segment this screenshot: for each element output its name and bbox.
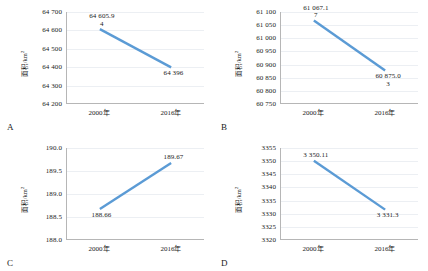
y-tick-label: 190.0 — [46, 144, 62, 152]
x-axis: 2000年2016年 — [66, 105, 204, 119]
y-axis-ticks: 33203325333033353340334533503355 — [234, 148, 278, 240]
y-tick-label: 64 400 — [42, 63, 62, 71]
data-point-label: 3 350.11 — [303, 152, 328, 160]
x-axis: 2000年2016年 — [280, 241, 418, 255]
y-tick-label: 64 300 — [42, 82, 62, 90]
y-tick-label: 3325 — [262, 223, 276, 231]
y-tick-label: 3320 — [262, 236, 276, 244]
y-tick-label: 3355 — [262, 144, 276, 152]
chart-panel-b: 面积/km260 75060 80060 85060 90060 95061 0… — [214, 0, 428, 135]
panel-letter: D — [221, 258, 228, 268]
y-tick-label: 61 000 — [256, 34, 276, 42]
data-point-label: 64 605.9 4 — [89, 13, 114, 28]
y-tick-label: 3330 — [262, 210, 276, 218]
y-tick-label: 189.5 — [46, 167, 62, 175]
data-point-label: 189.67 — [164, 154, 184, 162]
y-tick-label: 64 700 — [42, 8, 62, 16]
y-tick-label: 60 750 — [256, 100, 276, 108]
four-panel-line-chart-figure: 面积/km264 20064 30064 40064 50064 60064 7… — [0, 0, 428, 271]
chart-area: 面积/km2332033253330333533403345335033553 … — [224, 148, 420, 252]
y-tick-label: 3350 — [262, 157, 276, 165]
y-tick-label: 189.0 — [46, 190, 62, 198]
x-tick-label: 2016年 — [374, 243, 395, 253]
x-tick-label: 2016年 — [160, 243, 181, 253]
y-tick-label: 188.0 — [46, 236, 62, 244]
panel-letter: C — [7, 258, 13, 268]
y-tick-label: 60 950 — [256, 47, 276, 55]
data-series-line — [281, 148, 418, 239]
plot-region: 61 067.1 760 875.0 3 — [280, 12, 418, 104]
chart-area: 面积/km264 20064 30064 40064 50064 60064 7… — [10, 12, 206, 116]
x-tick-label: 2016年 — [160, 107, 181, 117]
x-tick-label: 2000年 — [303, 243, 324, 253]
x-tick-label: 2000年 — [303, 107, 324, 117]
panel-letter: A — [7, 122, 14, 132]
y-tick-label: 3340 — [262, 183, 276, 191]
data-series-line — [281, 12, 418, 103]
y-tick-label: 64 500 — [42, 45, 62, 53]
plot-region: 188.66189.67 — [66, 148, 204, 240]
x-axis: 2000年2016年 — [66, 241, 204, 255]
chart-panel-d: 面积/km2332033253330333533403345335033553 … — [214, 136, 428, 271]
y-tick-label: 61 100 — [256, 8, 276, 16]
panel-letter: B — [221, 122, 227, 132]
data-series-line — [67, 12, 204, 103]
x-tick-label: 2016年 — [374, 107, 395, 117]
data-point-label: 188.66 — [92, 212, 112, 220]
y-tick-label: 64 600 — [42, 26, 62, 34]
plot-region: 3 350.113 331.3 — [280, 148, 418, 240]
data-point-label: 3 331.3 — [377, 212, 399, 220]
data-point-label: 61 067.1 7 — [303, 5, 328, 20]
chart-area: 面积/km2188.0188.5189.0189.5190.0188.66189… — [10, 148, 206, 252]
data-series-line — [67, 148, 204, 239]
chart-panel-c: 面积/km2188.0188.5189.0189.5190.0188.66189… — [0, 136, 214, 271]
y-tick-label: 60 900 — [256, 61, 276, 69]
y-tick-label: 3335 — [262, 197, 276, 205]
y-axis-ticks: 188.0188.5189.0189.5190.0 — [20, 148, 64, 240]
y-tick-label: 60 800 — [256, 87, 276, 95]
data-point-label: 60 875.0 3 — [375, 73, 400, 88]
y-tick-label: 60 850 — [256, 74, 276, 82]
y-axis-ticks: 60 75060 80060 85060 90060 95061 00061 0… — [234, 12, 278, 104]
y-tick-label: 61 050 — [256, 21, 276, 29]
chart-panel-a: 面积/km264 20064 30064 40064 50064 60064 7… — [0, 0, 214, 135]
x-tick-label: 2000年 — [89, 107, 110, 117]
y-axis-ticks: 64 20064 30064 40064 50064 60064 700 — [20, 12, 64, 104]
data-point-label: 64 396 — [164, 70, 184, 78]
y-tick-label: 188.5 — [46, 213, 62, 221]
chart-area: 面积/km260 75060 80060 85060 90060 95061 0… — [224, 12, 420, 116]
x-axis: 2000年2016年 — [280, 105, 418, 119]
plot-region: 64 605.9 464 396 — [66, 12, 204, 104]
y-tick-label: 64 200 — [42, 100, 62, 108]
y-tick-label: 3345 — [262, 170, 276, 178]
x-tick-label: 2000年 — [89, 243, 110, 253]
